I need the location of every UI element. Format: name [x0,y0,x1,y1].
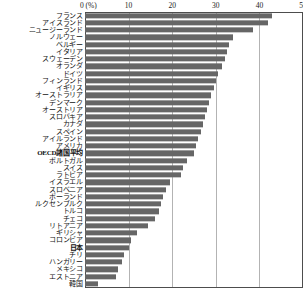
bar [85,71,218,76]
bar-cell [85,92,303,99]
bar-cell [85,34,303,41]
x-tick-label: 0 (%) [80,0,97,11]
bar-cell [85,201,303,208]
bar [85,180,170,185]
bar-cell [85,251,303,258]
bar [85,245,129,250]
bar [85,274,116,279]
bar [85,100,209,105]
bar-chart: 0 (%)1020304050 フランスアイスランドニュージーランドノルウェーベ… [0,0,303,289]
category-label: 韓国 [0,280,85,288]
bar [85,267,118,272]
bar [85,42,229,47]
bar-cell [85,121,303,128]
bar [85,78,216,83]
x-tick-label: 10 [125,0,133,11]
bar-cell [85,150,303,157]
x-tick-label: 40 [256,0,264,11]
bar-cell [85,63,303,70]
bar-cell [85,114,303,121]
bar [85,35,233,40]
bar [85,194,163,199]
bar [85,252,124,257]
x-tick-label: 20 [168,0,176,11]
bar-cell [85,85,303,92]
bar-cell [85,99,303,106]
bar-cell [85,215,303,222]
bar [85,158,187,163]
bar-cell [85,48,303,55]
bar [85,201,161,206]
bar [85,129,201,134]
bar [85,209,159,214]
bar [85,165,183,170]
bar [85,136,198,141]
bar-cell [85,27,303,34]
bar [85,93,211,98]
bar-cell [85,19,303,26]
bar-cell [85,70,303,77]
bar [85,143,196,148]
bar-rows: フランスアイスランドニュージーランドノルウェーベルギーイタリアスウェーデンオラン… [0,12,303,288]
bar [85,27,253,32]
bar [85,259,122,264]
bar [85,223,148,228]
x-tick-label: 30 [212,0,220,11]
bar-cell [85,186,303,193]
bar [85,114,205,119]
bar [85,49,227,54]
bar-cell [85,128,303,135]
bar-cell [85,77,303,84]
bar-cell [85,244,303,251]
bar-cell [85,56,303,63]
bar-cell [85,237,303,244]
bar [85,13,272,18]
bar [85,172,181,177]
x-axis-top: 0 (%)1020304050 [0,0,303,12]
bar-cell [85,179,303,186]
bar-cell [85,164,303,171]
bar-cell [85,222,303,229]
bar [85,64,222,69]
bar [85,216,155,221]
bar [85,238,131,243]
bar-cell [85,106,303,113]
bar [85,187,166,192]
bar-cell [85,157,303,164]
bar-cell [85,41,303,48]
x-tick-label: 50 [299,0,303,11]
bar-cell [85,172,303,179]
bar-cell [85,208,303,215]
bar [85,151,194,156]
bar [85,107,207,112]
bar [85,230,137,235]
bar-cell [85,193,303,200]
bar-cell [85,143,303,150]
bar-cell [85,12,303,19]
bar-cell [85,259,303,266]
bar-cell [85,266,303,273]
bar-cell [85,230,303,237]
bar-cell [85,273,303,280]
bar [85,122,203,127]
bar [85,281,98,286]
bar-cell [85,280,303,287]
bar [85,20,268,25]
bar-cell [85,135,303,142]
bar [85,85,214,90]
bar [85,56,225,61]
bar-row: 韓国 [0,280,303,287]
